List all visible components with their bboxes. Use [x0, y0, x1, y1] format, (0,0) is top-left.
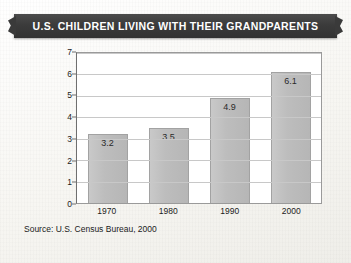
title-banner: U.S. CHILDREN LIVING WITH THEIR GRANDPAR…: [14, 14, 337, 38]
y-tick-mark: [72, 160, 76, 161]
gridline: [77, 117, 321, 118]
bar-value-label: 3.5: [150, 132, 188, 142]
gridline: [77, 53, 321, 54]
bar: 3.2: [88, 134, 128, 203]
chart-figure: U.S. CHILDREN LIVING WITH THEIR GRANDPAR…: [0, 0, 351, 263]
plot-wrapper: 3.23.54.96.1 01234567: [60, 52, 322, 204]
x-tick-label: 1980: [148, 206, 188, 216]
y-tick-mark: [72, 73, 76, 74]
bar-value-label: 6.1: [272, 76, 310, 86]
bar: 4.9: [210, 98, 250, 203]
x-tick-label: 1990: [210, 206, 250, 216]
source-note: Source: U.S. Census Bureau, 2000: [24, 224, 157, 234]
bar-slot: 6.1: [271, 53, 311, 203]
y-tick-mark: [72, 138, 76, 139]
plot-area: 3.23.54.96.1: [76, 52, 322, 204]
bar-series: 3.23.54.96.1: [77, 53, 321, 203]
bar-value-label: 4.9: [211, 102, 249, 112]
x-tick-label: 1970: [87, 206, 127, 216]
y-tick-mark: [72, 117, 76, 118]
chart-body: Percent of Population Under 18 Years of …: [14, 44, 337, 248]
bar-value-label: 3.2: [89, 138, 127, 148]
gridline: [77, 160, 321, 161]
gridline: [77, 139, 321, 140]
gridline: [77, 96, 321, 97]
gridline: [77, 74, 321, 75]
x-tick-label: 2000: [271, 206, 311, 216]
y-tick-mark: [72, 204, 76, 205]
y-tick-mark: [72, 95, 76, 96]
bar: 6.1: [271, 72, 311, 203]
x-axis-labels: 1970198019902000: [76, 206, 322, 216]
gridline: [77, 182, 321, 183]
y-tick-mark: [72, 52, 76, 53]
bar-slot: 3.5: [149, 53, 189, 203]
bar-slot: 4.9: [210, 53, 250, 203]
y-tick-mark: [72, 182, 76, 183]
chart-title: U.S. CHILDREN LIVING WITH THEIR GRANDPAR…: [33, 20, 319, 32]
bar-slot: 3.2: [88, 53, 128, 203]
